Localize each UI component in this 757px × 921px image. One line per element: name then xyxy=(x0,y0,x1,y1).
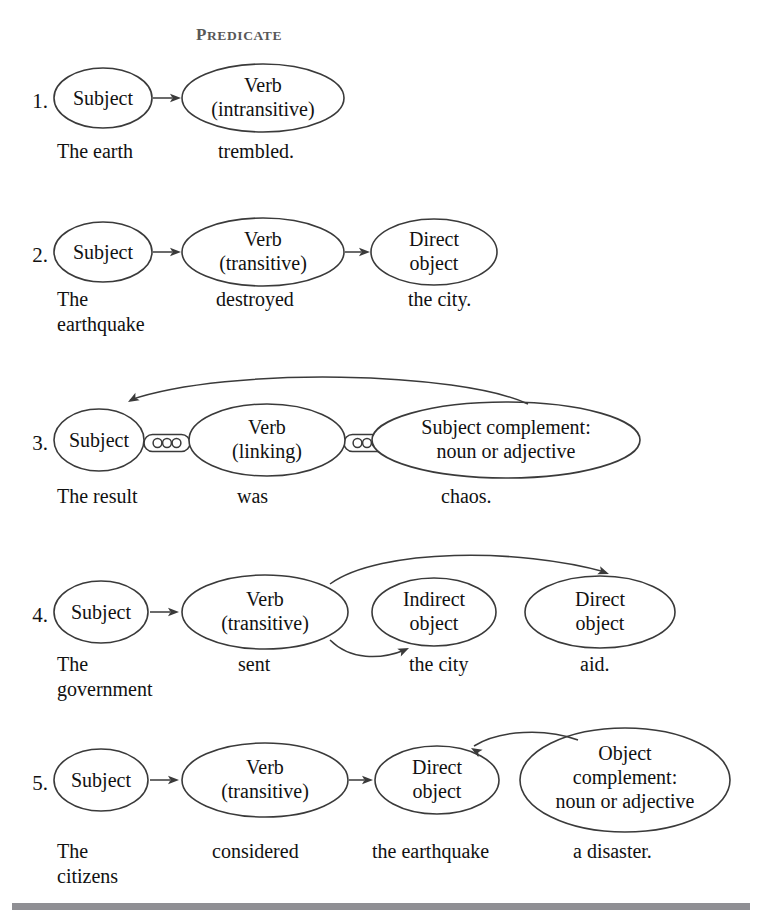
node-label-subject: Subject xyxy=(69,429,129,452)
chain-link-verb-complement-bead xyxy=(353,439,362,448)
chain-link-subject-verb-bead xyxy=(163,439,172,448)
caption-complement: chaos. xyxy=(441,485,492,507)
node-label-direct-object: Direct xyxy=(409,228,459,250)
bottom-divider-rule xyxy=(12,903,750,910)
node-label-verb-transitive: (transitive) xyxy=(219,252,307,275)
node-label-direct-object: object xyxy=(576,612,625,635)
caption-subject: The xyxy=(57,288,88,310)
node-label-verb-linking: (linking) xyxy=(232,440,302,463)
node-label-verb-transitive: Verb xyxy=(244,228,282,250)
node-label-direct-object: Direct xyxy=(412,756,462,778)
caption-verb: destroyed xyxy=(216,288,294,311)
node-label-verb-transitive: Verb xyxy=(246,756,284,778)
row-number-row-3: 3. xyxy=(32,431,48,455)
node-label-subject-complement: noun or adjective xyxy=(437,440,576,463)
node-label-subject-complement: Subject complement: xyxy=(421,416,590,439)
chain-link-verb-complement-bead xyxy=(363,439,372,448)
caption-direct: the earthquake xyxy=(372,840,489,863)
node-label-verb-transitive: Verb xyxy=(246,588,284,610)
node-label-subject: Subject xyxy=(71,769,131,792)
caption-verb: considered xyxy=(212,840,299,862)
caption-subject: earthquake xyxy=(57,313,145,336)
caption-verb: was xyxy=(237,485,268,507)
caption-subject: The result xyxy=(57,485,138,507)
caption-object: the city. xyxy=(408,288,471,311)
node-label-indirect-object: Indirect xyxy=(403,588,466,610)
row-number-row-2: 2. xyxy=(32,243,48,267)
node-label-verb-linking: Verb xyxy=(248,416,286,438)
caption-subject: citizens xyxy=(57,865,118,887)
node-label-subject: Subject xyxy=(73,241,133,264)
diagram-canvas: PREDICATE 1.SubjectVerb(intransitive)The… xyxy=(0,0,757,921)
caption-indirect: the city xyxy=(409,653,468,676)
node-label-verb-transitive: (transitive) xyxy=(221,612,309,635)
row-number-row-5: 5. xyxy=(32,771,48,795)
node-label-direct-object: object xyxy=(413,780,462,803)
caption-verb: trembled. xyxy=(218,140,294,162)
caption-subject: government xyxy=(57,678,153,701)
node-label-object-complement: noun or adjective xyxy=(556,790,695,813)
row-number-row-4: 4. xyxy=(32,603,48,627)
node-label-object-complement: complement: xyxy=(573,766,677,789)
node-label-subject: Subject xyxy=(73,87,133,110)
row-number-row-1: 1. xyxy=(32,89,48,113)
caption-direct: aid. xyxy=(580,653,609,675)
bottom-rule-group xyxy=(12,903,750,910)
node-label-verb-intransitive: (intransitive) xyxy=(211,98,314,121)
sentence-pattern-figure: PREDICATE 1.SubjectVerb(intransitive)The… xyxy=(0,0,757,921)
caption-subject: The earth xyxy=(57,140,133,162)
caption-verb: sent xyxy=(238,653,271,675)
caption-complement: a disaster. xyxy=(573,840,652,862)
chain-link-subject-verb-bead xyxy=(153,439,162,448)
node-label-verb-transitive: (transitive) xyxy=(221,780,309,803)
caption-subject: The xyxy=(57,840,88,862)
node-label-direct-object: object xyxy=(410,252,459,275)
node-label-indirect-object: object xyxy=(410,612,459,635)
caption-subject: The xyxy=(57,653,88,675)
node-label-direct-object: Direct xyxy=(575,588,625,610)
node-label-subject: Subject xyxy=(71,601,131,624)
node-label-verb-intransitive: Verb xyxy=(244,74,282,96)
chain-link-subject-verb-bead xyxy=(172,439,181,448)
node-label-object-complement: Object xyxy=(598,742,652,765)
predicate-header: PREDICATE xyxy=(196,25,282,44)
predicate-header-group: PREDICATE xyxy=(196,25,282,44)
